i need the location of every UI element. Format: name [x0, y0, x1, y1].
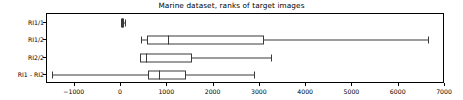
y-axis-tick-labels: RI1/1RI1/2RI2/2RI1 - RI2	[0, 13, 44, 83]
whisker-low	[52, 75, 149, 76]
chart-figure: Marine dataset, ranks of target images R…	[0, 0, 463, 100]
boxplot-series	[47, 14, 443, 82]
median-line	[159, 71, 160, 80]
boxplot-ri1---ri2	[47, 14, 443, 82]
box-iqr	[148, 71, 186, 80]
x-axis-label-1: 0	[118, 88, 122, 95]
y-axis-label-3: RI1 - RI2	[18, 71, 44, 78]
x-axis-label-4: 3000	[251, 88, 267, 95]
y-axis-label-0: RI1/1	[28, 18, 44, 25]
x-axis-label-8: 7000	[436, 88, 452, 95]
y-axis-label-1: RI1/2	[28, 36, 44, 43]
y-axis-label-2: RI2/2	[28, 53, 44, 60]
x-tick-8	[444, 83, 445, 86]
x-axis-label-0: −1000	[63, 88, 84, 95]
whisker-cap-low	[52, 72, 53, 79]
x-axis-label-3: 2000	[205, 88, 221, 95]
x-axis-tick-labels: −100001000200030004000500060007000	[46, 84, 444, 98]
chart-title: Marine dataset, ranks of target images	[0, 1, 463, 10]
plot-area	[46, 13, 444, 83]
x-axis-label-2: 1000	[158, 88, 174, 95]
x-axis-label-7: 6000	[390, 88, 406, 95]
whisker-cap-high	[254, 72, 255, 79]
x-axis-label-6: 5000	[344, 88, 360, 95]
whisker-high	[186, 75, 254, 76]
x-axis-label-5: 4000	[297, 88, 313, 95]
